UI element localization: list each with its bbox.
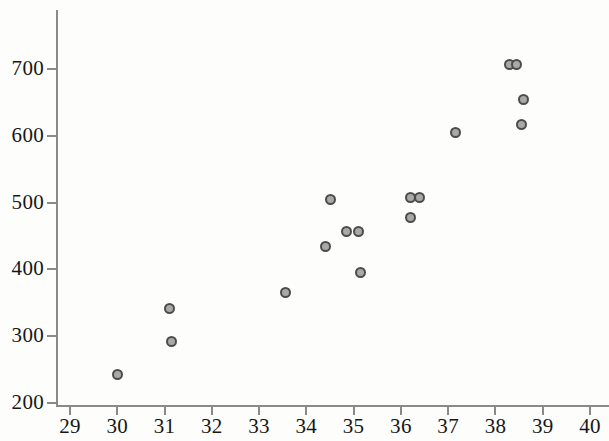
y-tick-600 — [47, 135, 57, 137]
y-tick-label-200: 200 — [0, 392, 44, 413]
y-tick-label-500: 500 — [0, 192, 44, 213]
x-tick-label-30: 30 — [97, 416, 137, 437]
y-tick-label-600: 600 — [0, 125, 44, 146]
data-point — [511, 59, 522, 70]
data-points-layer — [0, 0, 609, 441]
y-tick-label-400: 400 — [0, 258, 44, 279]
y-tick-label-700: 700 — [0, 58, 44, 79]
data-point — [405, 212, 416, 223]
data-point — [353, 226, 364, 237]
data-point — [341, 226, 352, 237]
data-point — [450, 127, 461, 138]
data-point — [325, 194, 336, 205]
x-tick-label-36: 36 — [381, 416, 421, 437]
y-tick-label-300: 300 — [0, 325, 44, 346]
data-point — [405, 192, 416, 203]
data-point — [320, 241, 331, 252]
data-point — [280, 287, 291, 298]
data-point — [504, 59, 515, 70]
x-axis-line — [56, 405, 609, 407]
data-point — [164, 303, 175, 314]
data-point — [166, 336, 177, 347]
x-tick-label-37: 37 — [428, 416, 468, 437]
data-point — [518, 94, 529, 105]
data-point — [516, 119, 527, 130]
y-tick-200 — [47, 402, 57, 404]
x-tick-label-34: 34 — [286, 416, 326, 437]
data-point — [414, 192, 425, 203]
x-tick-label-40: 40 — [570, 416, 609, 437]
y-tick-700 — [47, 68, 57, 70]
y-tick-300 — [47, 335, 57, 337]
x-tick-label-29: 29 — [50, 416, 90, 437]
x-tick-label-31: 31 — [145, 416, 185, 437]
x-tick-label-32: 32 — [192, 416, 232, 437]
x-tick-label-35: 35 — [334, 416, 374, 437]
x-tick-label-39: 39 — [523, 416, 563, 437]
y-tick-400 — [47, 268, 57, 270]
x-tick-label-38: 38 — [475, 416, 515, 437]
y-tick-500 — [47, 202, 57, 204]
data-point — [112, 369, 123, 380]
scatter-plot-figure: 200300400500600700 293031323334353637383… — [0, 0, 609, 441]
data-point — [355, 267, 366, 278]
x-tick-label-33: 33 — [239, 416, 279, 437]
